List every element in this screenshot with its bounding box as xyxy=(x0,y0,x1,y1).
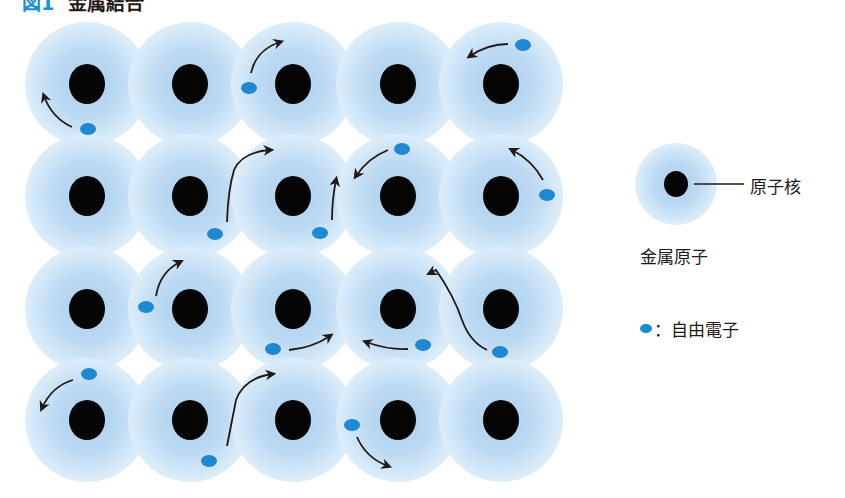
atomic-nucleus xyxy=(172,176,208,216)
atomic-nucleus xyxy=(380,400,416,440)
atomic-nucleus xyxy=(483,176,519,216)
free-electron xyxy=(415,339,431,351)
atomic-nucleus xyxy=(380,64,416,104)
free-electron xyxy=(539,189,555,201)
free-electron-label: ：自由電子 xyxy=(654,316,739,341)
free-electron xyxy=(80,123,96,135)
metallic-bond-diagram xyxy=(0,0,845,498)
free-electron-legend: ：自由電子 xyxy=(640,316,739,341)
free-electron xyxy=(265,343,281,355)
metal-atom-label: 金属原子 xyxy=(640,243,708,268)
free-electron xyxy=(81,368,97,380)
figure-title: 図1金属結合 xyxy=(22,0,144,15)
free-electron xyxy=(241,82,257,94)
atomic-nucleus xyxy=(483,400,519,440)
atomic-nucleus xyxy=(275,289,311,329)
atomic-nucleus xyxy=(483,289,519,329)
atomic-nucleus xyxy=(275,64,311,104)
free-electron xyxy=(515,39,531,51)
atomic-nucleus xyxy=(380,176,416,216)
figure-number: 図1 xyxy=(22,0,54,14)
figure-title-text: 金属結合 xyxy=(68,0,144,14)
nucleus-label: 原子核 xyxy=(750,173,801,198)
free-electron xyxy=(344,419,360,431)
atomic-nucleus xyxy=(69,400,105,440)
free-electron xyxy=(207,228,223,240)
free-electron xyxy=(394,143,410,155)
atomic-nucleus xyxy=(275,176,311,216)
atomic-nucleus xyxy=(380,289,416,329)
free-electron xyxy=(492,346,508,358)
atomic-nucleus xyxy=(69,64,105,104)
atomic-nucleus xyxy=(172,64,208,104)
atomic-nucleus xyxy=(172,289,208,329)
legend-atom xyxy=(635,143,744,225)
free-electron xyxy=(138,301,154,313)
legend-nucleus xyxy=(664,171,688,197)
free-electron xyxy=(312,227,328,239)
atomic-nucleus xyxy=(69,176,105,216)
atomic-nucleus xyxy=(483,64,519,104)
electron-legend-icon xyxy=(640,324,652,333)
atomic-nucleus xyxy=(275,400,311,440)
atom-lattice xyxy=(25,22,563,482)
atomic-nucleus xyxy=(69,289,105,329)
free-electron xyxy=(201,455,217,467)
atomic-nucleus xyxy=(172,400,208,440)
